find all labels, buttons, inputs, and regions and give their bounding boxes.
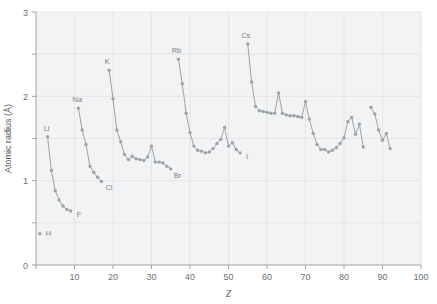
data-point — [350, 116, 353, 119]
y-tick-label: 2 — [23, 92, 28, 102]
data-point — [100, 180, 103, 183]
data-point — [81, 128, 84, 131]
data-point — [154, 160, 157, 163]
data-point — [296, 115, 299, 118]
data-point — [69, 209, 72, 212]
x-tick-label: 30 — [146, 272, 156, 282]
x-tick-label: 10 — [69, 272, 79, 282]
data-point — [223, 126, 226, 129]
data-point — [196, 149, 199, 152]
data-point — [385, 132, 388, 135]
atomic-radius-chart: 1020304050607080901000123Atomic radius (… — [0, 0, 437, 304]
chart-canvas: 1020304050607080901000123Atomic radius (… — [0, 0, 437, 304]
data-point — [346, 120, 349, 123]
y-axis-title: Atomic radius (Å) — [3, 104, 13, 173]
data-point — [227, 144, 230, 147]
data-point — [88, 165, 91, 168]
data-point — [369, 106, 372, 109]
data-point — [219, 138, 222, 141]
data-point — [254, 105, 257, 108]
data-point — [331, 149, 334, 152]
data-point — [258, 109, 261, 112]
data-point — [308, 117, 311, 120]
x-tick-label: 50 — [223, 272, 233, 282]
element-label-h: H — [46, 229, 51, 238]
data-point — [54, 189, 57, 192]
x-tick-label: 60 — [262, 272, 272, 282]
x-axis-ticks: 102030405060708090100 — [36, 265, 429, 282]
data-point — [131, 155, 134, 158]
x-tick-label: 100 — [413, 272, 428, 282]
data-point — [46, 135, 49, 138]
data-point — [354, 133, 357, 136]
data-point — [265, 111, 268, 114]
data-point — [246, 42, 249, 45]
data-point — [107, 68, 110, 71]
data-point — [381, 138, 384, 141]
data-point — [177, 58, 180, 61]
data-point — [115, 128, 118, 131]
data-point — [315, 143, 318, 146]
data-point — [111, 97, 114, 100]
y-axis-ticks: 0123 — [23, 8, 36, 271]
data-point — [277, 91, 280, 94]
data-point — [77, 106, 80, 109]
data-point — [38, 232, 41, 235]
data-point — [238, 151, 241, 154]
data-point — [138, 158, 141, 161]
data-point — [362, 145, 365, 148]
y-tick-label: 0 — [23, 261, 28, 271]
data-point — [358, 122, 361, 125]
element-label-i: I — [246, 152, 248, 161]
data-point — [335, 146, 338, 149]
data-point — [250, 80, 253, 83]
data-point — [65, 208, 68, 211]
data-point — [235, 148, 238, 151]
data-point — [269, 112, 272, 115]
data-point — [165, 165, 168, 168]
data-point — [389, 147, 392, 150]
data-point — [200, 149, 203, 152]
data-point — [208, 150, 211, 153]
element-label-cl: Cl — [105, 183, 112, 192]
data-point — [123, 153, 126, 156]
data-point — [146, 155, 149, 158]
data-point — [184, 112, 187, 115]
element-label-k: K — [105, 57, 110, 66]
x-tick-label: 40 — [185, 272, 195, 282]
data-point — [319, 148, 322, 151]
element-label-rb: Rb — [172, 46, 182, 55]
data-point — [61, 204, 64, 207]
data-point — [273, 112, 276, 115]
data-point — [57, 198, 60, 201]
y-tick-label: 3 — [23, 8, 28, 18]
data-point — [285, 113, 288, 116]
data-point — [150, 144, 153, 147]
data-point — [281, 112, 284, 115]
x-axis-title: Z — [226, 289, 232, 299]
data-point — [377, 128, 380, 131]
x-tick-label: 80 — [339, 272, 349, 282]
data-point — [142, 159, 145, 162]
data-point — [231, 141, 234, 144]
data-point — [288, 114, 291, 117]
data-point — [261, 110, 264, 113]
x-tick-label: 90 — [377, 272, 387, 282]
element-label-cs: Cs — [241, 31, 250, 40]
data-point — [192, 144, 195, 147]
data-point — [158, 160, 161, 163]
data-point — [300, 116, 303, 119]
data-point — [127, 158, 130, 161]
data-point — [211, 147, 214, 150]
element-label-li: Li — [44, 124, 50, 133]
x-tick-label: 20 — [108, 272, 118, 282]
data-point — [323, 148, 326, 151]
x-tick-label: 70 — [300, 272, 310, 282]
data-point — [119, 140, 122, 143]
data-point — [327, 150, 330, 153]
element-label-br: Br — [174, 171, 182, 180]
data-point — [204, 151, 207, 154]
element-label-na: Na — [73, 95, 83, 104]
data-point — [169, 167, 172, 170]
data-point — [50, 169, 53, 172]
